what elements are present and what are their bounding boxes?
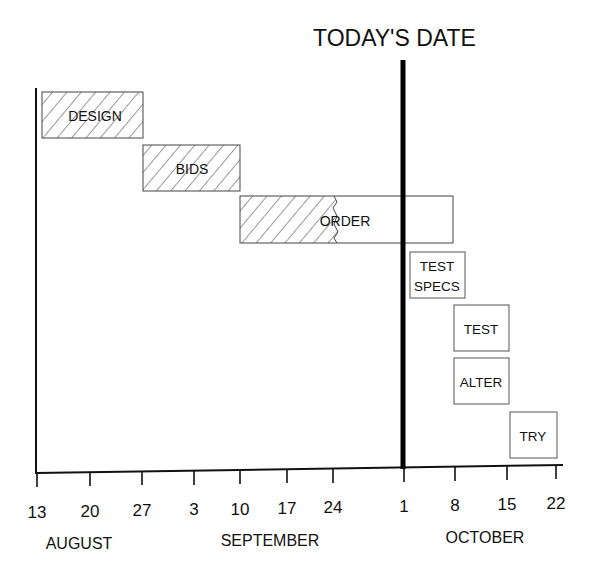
task-label-alter: ALTER <box>460 375 503 390</box>
task-label-test-specs-2: SPECS <box>414 279 460 294</box>
tick-label: 8 <box>450 496 459 515</box>
gantt-chart: TODAY'S DATE 13 20 27 3 10 17 24 1 8 15 … <box>0 0 600 583</box>
task-bar-order: ORDER <box>240 196 453 243</box>
tick-label: 24 <box>324 498 343 517</box>
task-label-test-specs: TEST <box>420 259 455 274</box>
tick-label: 22 <box>547 494 566 513</box>
month-label-august: AUGUST <box>46 535 113 552</box>
task-label-try: TRY <box>520 429 547 444</box>
task-bar-design: DESIGN <box>42 92 143 138</box>
month-label-october: OCTOBER <box>446 529 525 546</box>
tick-label: 15 <box>498 495 517 514</box>
task-label-test: TEST <box>464 322 499 337</box>
tick-label: 17 <box>278 499 297 518</box>
task-label-bids: BIDS <box>176 161 209 177</box>
month-label-september: SEPTEMBER <box>221 532 320 549</box>
x-tick-labels: 13 20 27 3 10 17 24 1 8 15 22 <box>28 494 566 522</box>
task-bar-alter: ALTER <box>454 358 509 404</box>
today-date-title: TODAY'S DATE <box>313 25 476 51</box>
tick-label: 10 <box>231 500 250 519</box>
tick-label: 3 <box>189 500 198 519</box>
tick-label: 20 <box>81 502 100 521</box>
task-bar-test: TEST <box>454 305 509 351</box>
task-label-design: DESIGN <box>68 108 122 124</box>
task-bar-bids: BIDS <box>143 145 240 191</box>
task-bar-try: TRY <box>510 412 557 458</box>
task-bar-test-specs: TEST SPECS <box>410 252 465 298</box>
x-axis <box>36 465 563 473</box>
task-label-order: ORDER <box>320 213 371 229</box>
tick-label: 27 <box>133 501 152 520</box>
tick-label: 13 <box>28 503 47 522</box>
tick-label: 1 <box>399 497 408 516</box>
